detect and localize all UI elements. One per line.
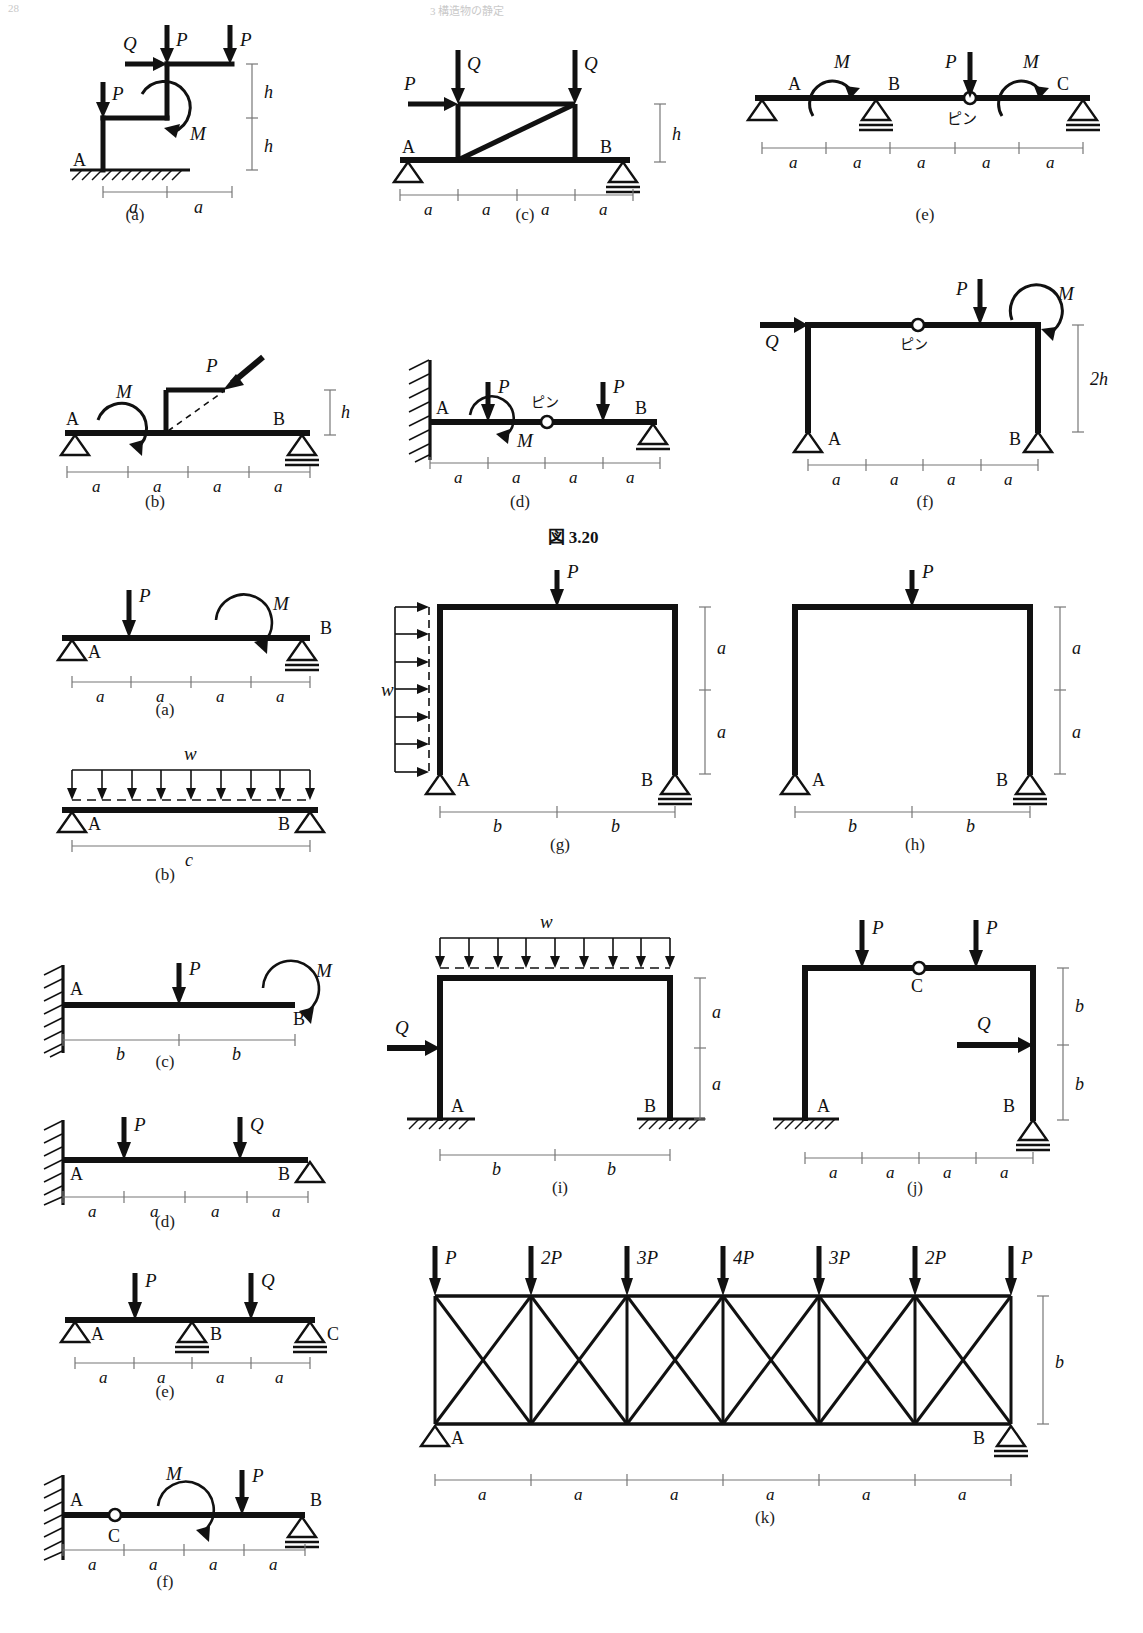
figure-320-panel-a: Q P P P M A h (30, 20, 360, 205)
dim-label-2h: 2h (1090, 369, 1108, 389)
pin-support-B (296, 1162, 324, 1182)
wall-fixed-support (44, 1475, 63, 1560)
dim-vertical-group (324, 390, 336, 435)
dim-label-a6: a (958, 1485, 967, 1504)
load-label-w: w (381, 679, 394, 700)
problem-panel-j: C A B P P (745, 910, 1085, 1180)
udl-arrowhead-group (67, 788, 315, 800)
frame-members (440, 978, 670, 1118)
udl-tick-group (72, 770, 310, 790)
figure-320-panel-e: A B C ピン M P M (740, 20, 1130, 205)
udl-tick-group (440, 938, 670, 958)
moment-M-arrowhead (164, 124, 180, 138)
dim-label-a4: a (599, 200, 608, 219)
pin-support-A (61, 435, 89, 455)
node-label-A: A (436, 398, 449, 418)
caption-prob-a: (a) (95, 700, 235, 720)
moment-M-arrowhead (196, 1526, 210, 1542)
wall-fixed-support (409, 360, 430, 462)
dim-label-a5: a (862, 1485, 871, 1504)
node-label-A: A (70, 1164, 83, 1184)
dim-label-a-v2: a (712, 1074, 721, 1094)
hinge-pin-C (109, 1509, 121, 1521)
pin-support-A (394, 162, 422, 182)
load-label-Q: Q (977, 1013, 991, 1034)
load-line-of-action (168, 391, 224, 431)
pin-support-A (781, 774, 809, 794)
frame-members (458, 104, 575, 160)
dim-label-a1: a (424, 200, 433, 219)
node-label-A: A (66, 409, 79, 429)
pin-support-A (58, 640, 86, 660)
load-label-P1: P (497, 376, 510, 397)
pin-support-A (58, 812, 86, 832)
load-label-P1: P (444, 1247, 457, 1268)
dim-label-a4: a (275, 1368, 284, 1387)
moment-label-M2: M (1022, 51, 1040, 72)
load-label-P1: P (175, 29, 188, 50)
dim-label-b1: b (492, 1159, 501, 1179)
dim-label-a1: a (789, 153, 798, 172)
figure-caption-320: 図 3.20 (493, 523, 653, 548)
roller-support-B (288, 640, 316, 660)
node-label-A: A (451, 1096, 464, 1116)
dim-vertical-group (694, 978, 706, 1119)
hinge-label-pin: ピン (947, 111, 977, 127)
moment-label-M: M (315, 960, 333, 981)
roller-support-B (178, 1322, 206, 1342)
problem-panel-a: A B P M a a a a (20, 570, 370, 715)
node-label-A: A (457, 770, 470, 790)
dim-label-b1: b (848, 816, 857, 836)
dim-horizontal-group (805, 1152, 1033, 1164)
caption-prob-i: (i) (490, 1178, 630, 1198)
load-label-Q: Q (123, 33, 137, 54)
caption-320-f: (f) (855, 492, 995, 512)
dim-label-a4: a (626, 468, 635, 487)
problem-panel-c: A B P M b b (20, 925, 370, 1060)
node-label-C: C (327, 1324, 339, 1344)
dim-label-a3: a (947, 470, 956, 489)
node-label-A: A (70, 1490, 83, 1510)
node-label-B: B (635, 398, 647, 418)
load-label-Q: Q (250, 1114, 264, 1135)
load-label-Q2: Q (584, 53, 598, 74)
figure-320-panel-b: A B P M h (20, 290, 360, 480)
dim-label-a1: a (829, 1163, 838, 1182)
caption-320-e: (e) (855, 205, 995, 225)
caption-320-d: (d) (450, 492, 590, 512)
load-label-P: P (944, 51, 957, 72)
load-label-Q: Q (395, 1017, 409, 1038)
figure-320-panel-d: A B ピン P M P (395, 310, 685, 480)
problem-panel-d: A B P Q a a a a (20, 1085, 370, 1220)
roller-support-B (661, 774, 689, 794)
textbook-page: 28 3 構造物の静定 (0, 0, 1143, 1633)
truss-verticals (435, 1296, 1011, 1424)
roller-support-B (862, 100, 890, 120)
dim-vertical-group (1037, 1296, 1049, 1424)
node-label-C: C (911, 976, 923, 996)
fixed-ground-support-A (773, 1119, 839, 1129)
problem-panel-b: w A B (20, 738, 370, 868)
node-label-A: A (70, 979, 83, 999)
problem-panel-i: w (385, 910, 715, 1180)
load-P6-arrowhead (909, 1278, 921, 1296)
roller-support-B (288, 435, 316, 455)
dim-label-a4: a (272, 1202, 281, 1221)
node-label-B: B (273, 409, 285, 429)
node-label-A: A (91, 1324, 104, 1344)
moment-M-arc (158, 1482, 214, 1530)
load-label-w: w (184, 743, 197, 764)
moment-M-arrowhead (129, 440, 143, 456)
roller-support-B (997, 1426, 1025, 1446)
hinge-label-pin: ピン (531, 395, 559, 410)
load-label-P2: P (612, 376, 625, 397)
dim-label-b1: b (493, 816, 502, 836)
dim-label-h1: h (264, 82, 273, 102)
pin-support-A (426, 774, 454, 794)
frame-members (103, 64, 232, 170)
load-label-P: P (188, 958, 201, 979)
dim-label-a5: a (1046, 153, 1055, 172)
udl-tick-group (395, 607, 418, 772)
moment-label-M: M (189, 123, 207, 144)
dim-label-a4: a (982, 153, 991, 172)
